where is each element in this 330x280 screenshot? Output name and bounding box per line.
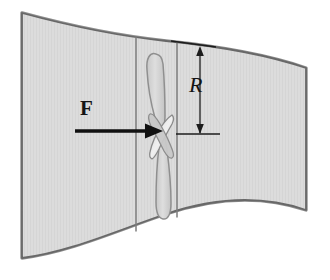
duct-turbine-diagram: [0, 0, 330, 280]
force-label: F: [80, 98, 93, 119]
figure-root: F R: [0, 0, 330, 280]
radius-label: R: [189, 74, 202, 96]
